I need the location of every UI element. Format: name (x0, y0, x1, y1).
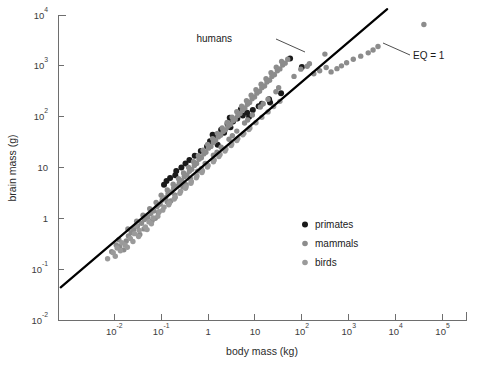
data-point-mammals-104 (339, 63, 344, 68)
x-tick-label-0: 10-2 (106, 322, 123, 338)
annotation-leader-humans (276, 39, 305, 52)
x-tick-label-3: 10 (250, 326, 261, 337)
annotations-group: humansEQ = 1 (196, 33, 444, 61)
data-point-mammals-139 (261, 101, 266, 106)
legend-label-primates: primates (315, 219, 353, 230)
data-point-primates-2 (278, 90, 284, 96)
data-point-mammals-110 (375, 44, 380, 49)
data-point-birds-46 (183, 186, 188, 191)
data-point-birds-44 (172, 196, 177, 201)
data-point-birds-48 (194, 175, 199, 180)
data-point-mammals-109 (370, 47, 375, 52)
data-point-birds-47 (188, 181, 193, 186)
data-point-birds-39 (144, 227, 149, 232)
data-point-mammals-142 (307, 61, 312, 66)
series-mammals (109, 22, 427, 255)
data-point-mammals-126 (250, 112, 255, 117)
data-point-mammals-141 (291, 74, 296, 79)
data-point-mammals-96 (285, 57, 290, 62)
brain-body-mass-scatter-figure: 10-210-111010210310410510410310210110-11… (0, 0, 485, 367)
data-point-mammals-106 (351, 57, 356, 62)
data-point-birds-43 (166, 202, 171, 207)
legend-marker-birds (302, 260, 308, 266)
data-point-mammals-103 (334, 66, 339, 71)
x-tick-label-6: 104 (388, 322, 403, 338)
data-point-birds-40 (149, 221, 154, 226)
y-tick-label-2: 102 (34, 107, 49, 123)
data-point-mammals-108 (366, 50, 371, 55)
axes-group (58, 15, 466, 320)
legend-label-mammals: mammals (315, 238, 358, 249)
data-points-group (105, 22, 427, 262)
y-tick-label-1: 103 (34, 56, 49, 72)
annotation-label-humans: humans (196, 33, 232, 44)
data-point-mammals-138 (245, 117, 250, 122)
scatter-plot-svg: 10-210-111010210310410510410310210110-11… (0, 0, 485, 367)
data-point-mammals-143 (322, 51, 327, 56)
data-point-primates-24 (178, 165, 184, 171)
x-tick-label-2: 1 (205, 326, 210, 337)
legend-group: primatesmammalsbirds (302, 219, 358, 268)
data-point-birds-42 (160, 207, 165, 212)
data-point-mammals-137 (230, 133, 235, 138)
data-point-birds-34 (113, 253, 118, 258)
legend-marker-primates (302, 222, 308, 228)
data-point-birds-0 (105, 256, 110, 261)
data-point-mammals-102 (328, 69, 333, 74)
data-point-mammals-124 (234, 128, 239, 133)
data-point-mammals-140 (276, 85, 281, 90)
annotation-leader-eq-one (383, 43, 410, 55)
data-point-primates-29 (161, 182, 167, 188)
y-axis-label: brain mass (g) (6, 134, 18, 201)
data-point-birds-41 (155, 214, 160, 219)
data-point-mammals-128 (265, 97, 270, 102)
axis-ticks-group (58, 15, 443, 320)
y-tick-label-4: 1 (43, 213, 48, 224)
data-point-mammals-111 (421, 22, 426, 27)
data-point-birds-49 (199, 170, 204, 175)
data-point-primates-6 (250, 107, 256, 113)
axis-frame (58, 15, 466, 320)
y-tick-label-5: 10-1 (31, 259, 48, 275)
data-point-mammals-105 (344, 60, 349, 65)
data-point-birds-36 (125, 245, 130, 250)
data-point-birds-35 (118, 248, 123, 253)
data-point-mammals-22 (158, 193, 163, 198)
x-tick-label-5: 103 (342, 322, 357, 338)
data-point-birds-37 (130, 239, 135, 244)
data-point-birds-45 (177, 191, 182, 196)
series-birds (105, 99, 283, 262)
legend-label-birds: birds (315, 257, 337, 268)
y-tick-label-3: 10 (37, 162, 48, 173)
data-point-mammals-97 (298, 66, 303, 71)
axis-tick-labels-group: 10-210-111010210310410510410310210110-11… (31, 5, 450, 337)
x-tick-label-1: 10-1 (153, 322, 170, 338)
y-tick-label-6: 10-2 (31, 310, 48, 326)
data-point-mammals-101 (323, 65, 328, 70)
data-point-mammals-107 (358, 53, 363, 58)
annotation-label-eq-one: EQ = 1 (413, 50, 445, 61)
data-point-birds-38 (136, 234, 141, 239)
legend-marker-mammals (302, 241, 308, 247)
x-tick-label-7: 105 (435, 322, 450, 338)
x-tick-label-4: 102 (295, 322, 310, 338)
x-axis-label: body mass (kg) (226, 345, 298, 357)
data-point-birds-7 (137, 228, 142, 233)
y-tick-label-0: 104 (34, 5, 49, 21)
